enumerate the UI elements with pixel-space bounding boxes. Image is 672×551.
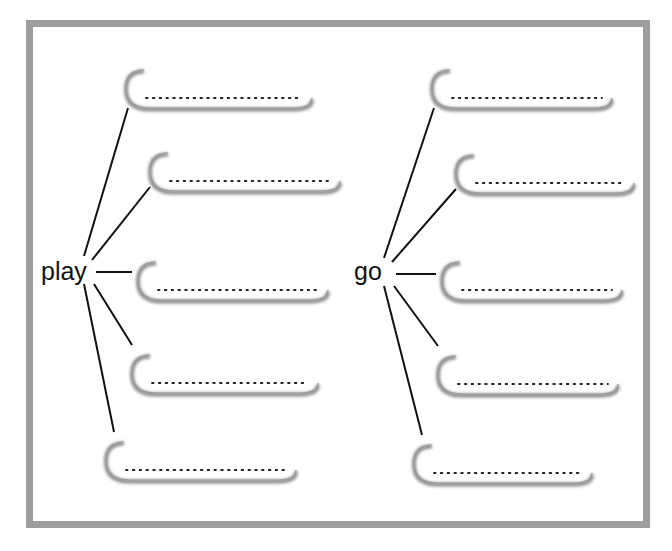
answer-field-play-4[interactable] bbox=[146, 355, 312, 395]
answer-field-play-3[interactable] bbox=[152, 262, 322, 302]
hub-word-play: play bbox=[41, 259, 87, 284]
answer-field-go-2[interactable] bbox=[470, 155, 628, 195]
hub-word-go: go bbox=[354, 259, 382, 284]
connector-line bbox=[384, 286, 422, 435]
answer-field-go-1[interactable] bbox=[446, 70, 606, 110]
answer-field-play-5[interactable] bbox=[120, 442, 290, 482]
connector-line bbox=[384, 108, 434, 258]
answer-field-play-1[interactable] bbox=[140, 70, 306, 110]
connector-line bbox=[392, 189, 456, 262]
connector-line bbox=[94, 284, 132, 345]
answer-field-go-5[interactable] bbox=[428, 445, 586, 485]
connector-line bbox=[394, 286, 438, 346]
connector-line bbox=[84, 284, 114, 432]
connector-line bbox=[84, 108, 128, 256]
answer-field-play-2[interactable] bbox=[164, 153, 334, 193]
answer-field-go-4[interactable] bbox=[452, 356, 612, 396]
answer-field-go-3[interactable] bbox=[456, 262, 616, 302]
